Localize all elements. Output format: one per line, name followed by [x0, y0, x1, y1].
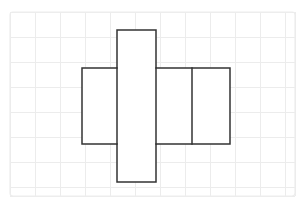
net-diagram-canvas [0, 0, 306, 206]
back-face [192, 68, 230, 144]
net-diagram-svg [0, 0, 306, 206]
right-side-face [156, 68, 192, 144]
front-face [117, 68, 156, 144]
bottom-flap-face [117, 144, 156, 182]
top-flap-face [117, 30, 156, 68]
left-side-face [82, 68, 117, 144]
